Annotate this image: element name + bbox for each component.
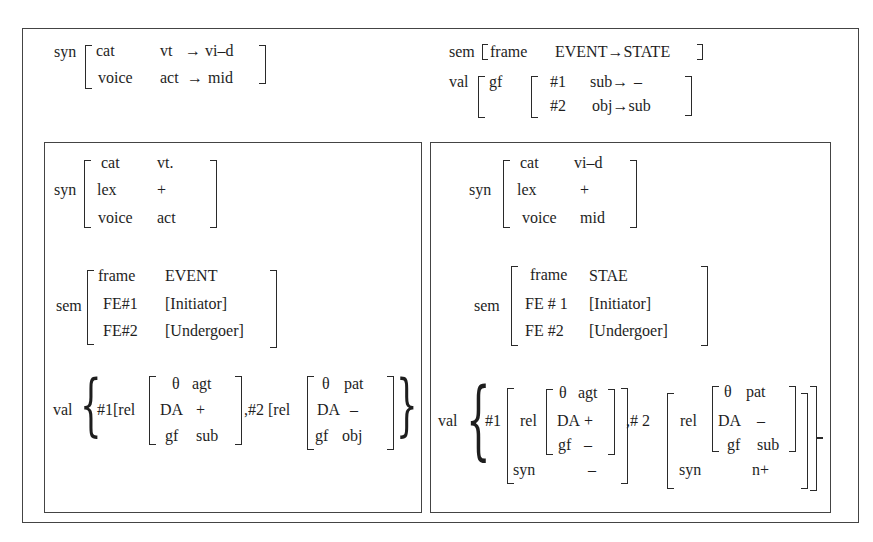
right-val-arg1-rel-right-bracket <box>608 389 615 455</box>
left-sem-label: sem <box>56 298 82 314</box>
left-val-label: val <box>53 402 73 418</box>
left-val-arg2-da-value: – <box>350 402 358 418</box>
top-val-arg2-value: obj→sub <box>592 98 651 114</box>
left-val-arg1-theta-attr: θ <box>172 376 180 392</box>
top-syn-voice-value: act <box>160 70 179 86</box>
right-sem-left-bracket <box>511 266 518 346</box>
right-val-arg2-rel-label: rel <box>680 413 697 429</box>
right-val-arg2-outer-right-bracket <box>801 393 808 489</box>
right-syn-label: syn <box>469 182 491 198</box>
left-val-arg2-theta-value: pat <box>344 376 364 392</box>
left-val-arg1-da-attr: DA <box>160 402 183 418</box>
left-sem-left-bracket <box>87 270 94 345</box>
right-val-arg1-outer-right-bracket <box>621 388 628 484</box>
top-val-arg1-id: #1 <box>550 74 566 90</box>
right-syn-lex-attr: lex <box>517 182 537 198</box>
right-val-arg2-gf-value: sub <box>757 437 779 453</box>
left-val-arg1-prefix: #1[rel <box>97 402 135 418</box>
left-val-arg1-right-bracket <box>235 376 242 445</box>
top-syn-cat-arrow: → <box>185 43 201 59</box>
left-val-arg1-left-bracket <box>149 376 156 445</box>
top-syn-cat-attr: cat <box>96 43 115 59</box>
right-syn-left-bracket <box>503 160 510 228</box>
top-val-gf-attr: gf <box>489 74 502 90</box>
right-syn-cat-value: vi–d <box>574 155 602 171</box>
top-syn-voice-result: mid <box>208 70 233 86</box>
top-sem-label: sem <box>449 44 475 60</box>
top-syn-voice-arrow: → <box>187 70 203 86</box>
right-sem-fe2-attr: FE #2 <box>525 323 564 339</box>
left-val-arg1-gf-value: sub <box>196 428 218 444</box>
right-val-close-bracket <box>810 386 817 491</box>
top-val-inner-right-bracket <box>685 76 692 116</box>
top-val-arg1-value: sub→ <box>590 74 628 90</box>
right-sem-label: sem <box>474 298 500 314</box>
right-val-arg2-syn-label: syn <box>679 462 701 478</box>
left-syn-lex-attr: lex <box>97 182 117 198</box>
right-val-arg2-syn-value: n+ <box>752 462 769 478</box>
right-val-arg1-id: #1 <box>485 413 501 429</box>
top-syn-cat-value: vt <box>160 43 172 59</box>
right-syn-cat-attr: cat <box>520 155 539 171</box>
right-syn-right-bracket <box>630 160 637 228</box>
left-syn-cat-value: vt. <box>157 155 173 171</box>
right-val-arg1-theta-value: agt <box>578 385 598 401</box>
right-sem-right-bracket <box>701 266 708 346</box>
right-val-arg2-theta-value: pat <box>746 384 766 400</box>
right-val-close-tick <box>817 437 823 439</box>
left-syn-cat-attr: cat <box>101 155 120 171</box>
left-syn-voice-attr: voice <box>98 210 133 226</box>
right-val-arg1-da-value: + <box>584 413 593 429</box>
top-syn-voice-attr: voice <box>98 70 133 86</box>
right-sem-fe2-value: [Undergoer] <box>589 323 668 339</box>
left-val-arg2-gf-value: obj <box>342 428 362 444</box>
right-sem-fe1-value: [Initiator] <box>589 296 651 312</box>
right-val-arg1-gf-attr: gf <box>558 437 571 453</box>
right-val-arg2-da-attr: DA <box>718 413 741 429</box>
left-syn-lex-value: + <box>157 182 166 198</box>
right-val-arg1-gf-value: – <box>584 437 592 453</box>
top-val-arg1-result: – <box>634 74 642 90</box>
top-syn-cat-result: vi–d <box>205 43 233 59</box>
right-sem-frame-attr: frame <box>530 267 567 283</box>
left-sem-frame-attr: frame <box>98 268 135 284</box>
top-syn-label: syn <box>54 44 76 60</box>
right-val-arg2-outer-left-bracket <box>667 393 674 489</box>
left-val-arg1-gf-attr: gf <box>165 428 178 444</box>
right-val-arg1-syn-label: syn <box>513 462 535 478</box>
right-syn-voice-attr: voice <box>522 210 557 226</box>
left-val-arg2-theta-attr: θ <box>322 376 330 392</box>
left-sem-fe2-attr: FE#2 <box>103 323 138 339</box>
left-val-arg2-prefix: ,#2 [rel <box>244 402 290 418</box>
right-sem-fe1-attr: FE # 1 <box>525 296 568 312</box>
right-val-arg2-gf-attr: gf <box>727 437 740 453</box>
left-sem-fe1-value: [Initiator] <box>165 296 227 312</box>
left-syn-label: syn <box>54 182 76 198</box>
right-val-arg2-da-value: – <box>757 413 765 429</box>
top-val-label: val <box>449 74 469 90</box>
right-val-arg1-rel-label: rel <box>520 413 537 429</box>
left-val-arg2-right-bracket <box>387 376 394 450</box>
top-sem-left-bracket <box>482 44 488 60</box>
left-val-arg2-gf-attr: gf <box>315 428 328 444</box>
left-val-arg2-da-attr: DA <box>317 402 340 418</box>
right-val-label: val <box>438 413 458 429</box>
top-sem-frame-attr: frame <box>490 44 527 60</box>
right-val-arg1-syn-value: – <box>588 462 596 478</box>
left-syn-right-bracket <box>210 160 217 228</box>
right-syn-voice-value: mid <box>580 210 605 226</box>
right-val-arg1-da-attr: DA <box>557 413 580 429</box>
left-val-close-brace: } <box>396 371 418 439</box>
left-sem-fe2-value: [Undergoer] <box>165 323 244 339</box>
left-val-arg1-theta-value: agt <box>192 376 212 392</box>
left-syn-voice-value: act <box>157 210 176 226</box>
right-val-arg2-theta-attr: θ <box>724 384 732 400</box>
right-val-arg2-id: ,# 2 <box>626 413 650 429</box>
right-val-arg2-rel-right-bracket <box>789 386 796 452</box>
right-val-arg1-theta-attr: θ <box>559 385 567 401</box>
left-syn-left-bracket <box>84 160 91 228</box>
top-val-inner-left-bracket <box>531 76 538 118</box>
right-sem-frame-value: STAE <box>589 268 628 284</box>
top-syn-right-bracket <box>259 45 266 84</box>
right-syn-lex-value: + <box>580 182 589 198</box>
